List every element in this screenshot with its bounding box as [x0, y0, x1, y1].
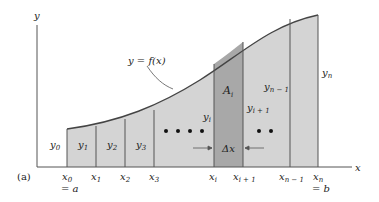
y0-label: y0 — [49, 139, 61, 152]
riemann-sum-diagram: y x y = f(x) Ai y0 y1 y2 y3 yi yi + 1 yn… — [0, 0, 379, 202]
x-axis-label: x — [355, 162, 361, 173]
x2-label: x2 — [120, 171, 131, 184]
xn1-label: xn − 1 — [279, 171, 304, 184]
curve-label: y = f(x) — [127, 55, 166, 66]
x3-label: x3 — [149, 171, 160, 184]
yn-label: yn — [321, 67, 333, 80]
panel-label: (a) — [17, 171, 31, 182]
curve-pointer — [147, 66, 173, 89]
delta-x-label: Δx — [221, 143, 235, 154]
x0-extra: = a — [61, 183, 79, 194]
x1-label: x1 — [91, 171, 101, 184]
y-axis-label: y — [33, 10, 40, 21]
xi1-label: xi + 1 — [233, 171, 256, 184]
xi-label: xi — [209, 171, 217, 184]
xn-extra: = b — [312, 183, 330, 194]
